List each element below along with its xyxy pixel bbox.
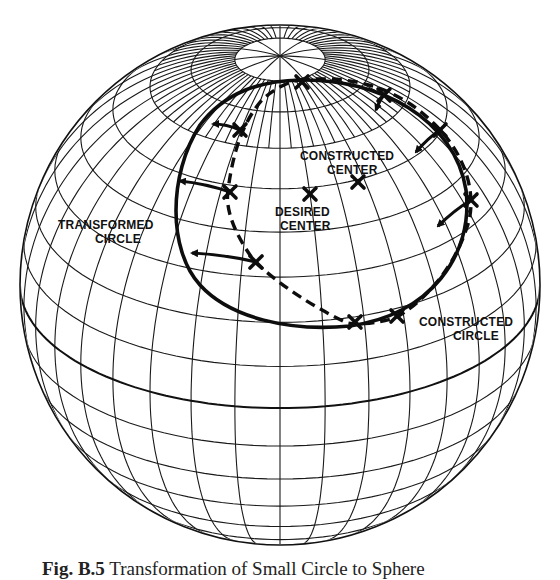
label-desired-center-line1: DESIRED xyxy=(275,205,330,219)
figure-caption: Fig. B.5 Transformation of Small Circle … xyxy=(42,558,425,580)
label-transformed-circle-line1: TRANSFORMED xyxy=(58,218,154,232)
label-constructed-circle-line2: CIRCLE xyxy=(453,329,499,343)
label-constructed-circle-line1: CONSTRUCTED xyxy=(419,315,513,329)
label-desired-center: DESIRED CENTER xyxy=(275,205,331,233)
label-constructed-center-line1: CONSTRUCTED xyxy=(300,149,394,163)
caption-text: Transformation of Small Circle to Sphere xyxy=(109,558,424,579)
label-desired-center-line2: CENTER xyxy=(280,219,331,233)
caption-prefix: Fig. B.5 xyxy=(42,558,105,579)
label-transformed-circle-line2: CIRCLE xyxy=(95,232,141,246)
label-constructed-center-line2: CENTER xyxy=(327,163,378,177)
